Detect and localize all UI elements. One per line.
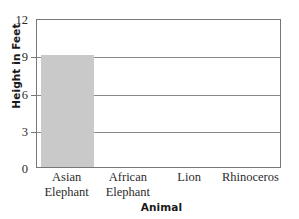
x-category-label-line1: African [109, 170, 147, 184]
plot-area: 129630 [36, 19, 281, 168]
x-category-label-line1: Lion [177, 170, 201, 184]
bar-chart-figure: Height in Feet 129630 AsianElephantAfric… [0, 0, 299, 219]
x-category-label-line1: Rhinoceros [222, 170, 279, 184]
x-category-label: AsianElephant [36, 170, 97, 199]
bar [41, 55, 94, 167]
x-category-label: Rhinoceros [220, 170, 281, 185]
y-tick-label: 12 [16, 13, 29, 28]
y-tick-mark [31, 95, 37, 96]
y-tick-label: 0 [22, 162, 28, 177]
x-category-label: Lion [159, 170, 220, 185]
y-tick-label: 9 [22, 50, 28, 65]
y-tick-mark [31, 132, 37, 133]
x-category-label-line1: Asian [52, 170, 81, 184]
x-category-label-line2: Elephant [36, 185, 97, 200]
x-axis-title: Animal [0, 201, 299, 213]
x-axis-category-labels: AsianElephantAfricanElephantLionRhinocer… [36, 170, 281, 202]
y-tick-mark [31, 57, 37, 58]
x-category-label: AfricanElephant [97, 170, 158, 199]
x-category-label-line2: Elephant [97, 185, 158, 200]
y-tick-label: 3 [22, 124, 28, 139]
x-axis-title-text: Animal [141, 201, 182, 213]
plot-inner: 129630 [37, 20, 280, 167]
y-tick-label: 6 [22, 87, 28, 102]
